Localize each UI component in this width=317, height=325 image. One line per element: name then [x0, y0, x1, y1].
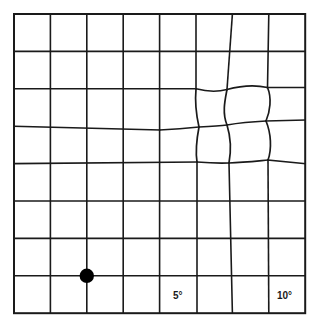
ten-degree-label: 10° [277, 291, 292, 301]
five-degree-label: 5° [173, 291, 183, 301]
amsler-grid-svg [0, 0, 317, 325]
amsler-grid-chart: 5° 10° [0, 0, 317, 325]
grid-line-v-6-lower [268, 160, 269, 313]
fixation-dot [80, 269, 94, 283]
grid-line-h-2-right [266, 120, 305, 121]
